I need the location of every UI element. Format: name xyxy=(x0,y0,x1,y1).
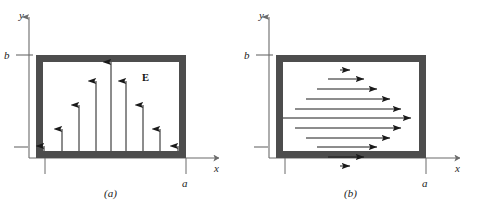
x-axis-label: x xyxy=(454,162,460,174)
physics-field-figure: y x b a xyxy=(0,0,481,211)
panel-tag-a: (a) xyxy=(104,187,117,200)
y-axis-label: y xyxy=(18,9,24,21)
panel-a-canvas: y x b a xyxy=(0,0,240,211)
y-tick-b-label: b xyxy=(4,49,10,61)
y-axis-label: y xyxy=(258,9,264,21)
panel-b-canvas: y x b a xyxy=(240,0,481,211)
panel-b: y x b a xyxy=(240,0,480,211)
x-axis-label: x xyxy=(213,162,219,174)
x-tick-a-label: a xyxy=(182,177,188,189)
y-tick-b-label: b xyxy=(244,49,250,61)
panel-tag-b: (b) xyxy=(344,187,357,200)
panel-a: y x b a xyxy=(0,0,240,211)
field-label-E: E xyxy=(142,72,149,83)
x-tick-a-label: a xyxy=(422,177,428,189)
